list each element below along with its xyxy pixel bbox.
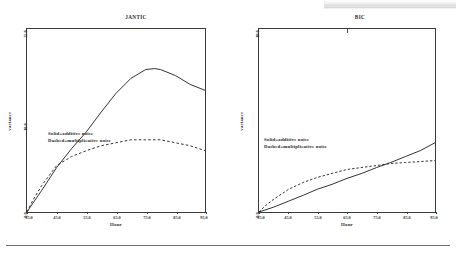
plot-area-left: 25.0 10.0 0.0 variance 35.0 bbox=[26, 28, 206, 213]
x-tick-label: 45.0 bbox=[53, 215, 60, 220]
legend-left: Solid=additive noise Dashed=multiplicati… bbox=[48, 130, 111, 144]
page-horizontal-rule bbox=[6, 245, 450, 246]
x-tick-label: 75.0 bbox=[143, 215, 150, 220]
panel-jantic: JANTIC 25.0 10.0 0.0 variance bbox=[0, 8, 228, 236]
figure-row: JANTIC 25.0 10.0 0.0 variance bbox=[0, 8, 456, 236]
series-multiplicative-noise-right bbox=[259, 161, 435, 212]
y-axis-label-right: variance bbox=[239, 111, 244, 130]
x-tick-label: 65.0 bbox=[343, 215, 350, 220]
panel-bic: BIC 10.0 0.0 variance bbox=[228, 8, 456, 236]
x-tick-label: 85.0 bbox=[403, 215, 410, 220]
x-tick-label: 95.0 bbox=[430, 215, 437, 220]
figure-sheet: JANTIC 25.0 10.0 0.0 variance bbox=[0, 0, 456, 262]
x-tick-label: 35.0 bbox=[257, 215, 264, 220]
series-canvas-left bbox=[27, 29, 205, 212]
series-additive-noise-right bbox=[259, 143, 435, 212]
y-axis-label-left: variance bbox=[7, 111, 12, 130]
legend-entry-multiplicative-right: Dashed=multiplicative noise bbox=[264, 143, 327, 150]
x-axis-label-left: Hour bbox=[27, 222, 205, 227]
legend-entry-additive-left: Solid=additive noise bbox=[48, 130, 111, 137]
x-tick-label: 45.0 bbox=[284, 215, 291, 220]
x-axis-label-right: Hour bbox=[259, 222, 435, 227]
x-tick-label: 95.0 bbox=[200, 215, 207, 220]
x-tick-label: 75.0 bbox=[373, 215, 380, 220]
panel-title-right: BIC bbox=[228, 14, 456, 20]
legend-right: Solid=additive noise Dashed=multiplicati… bbox=[264, 136, 327, 150]
plot-area-right: 10.0 0.0 variance 35.0 45.0 bbox=[258, 28, 436, 213]
x-tick-label: 65.0 bbox=[113, 215, 120, 220]
x-tick-label: 35.0 bbox=[25, 215, 32, 220]
panel-title-left: JANTIC bbox=[0, 14, 250, 20]
legend-entry-additive-right: Solid=additive noise bbox=[264, 136, 327, 143]
x-tick-label: 55.0 bbox=[314, 215, 321, 220]
x-tick-label: 85.0 bbox=[173, 215, 180, 220]
series-multiplicative-noise-left bbox=[27, 140, 205, 212]
legend-entry-multiplicative-left: Dashed=multiplicative noise bbox=[48, 137, 111, 144]
series-canvas-right bbox=[259, 29, 435, 212]
x-tick-label: 55.0 bbox=[83, 215, 90, 220]
